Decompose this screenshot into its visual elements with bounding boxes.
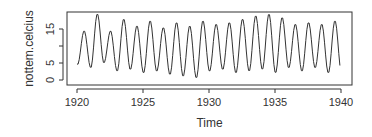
x-axis: 19201925193019351940 xyxy=(65,89,353,108)
y-tick-label: 0 xyxy=(44,77,56,83)
temperature-line xyxy=(77,15,340,78)
time-series-chart: 0515 19201925193019351940 nottem.celcius… xyxy=(0,0,372,137)
x-tick-label: 1940 xyxy=(329,96,353,108)
x-tick-label: 1920 xyxy=(65,96,89,108)
x-tick-label: 1935 xyxy=(263,96,287,108)
x-axis-label: Time xyxy=(196,116,223,130)
y-axis: 0515 xyxy=(44,23,63,83)
y-tick-label: 15 xyxy=(44,23,56,35)
y-tick-label: 5 xyxy=(44,60,56,66)
y-axis-label: nottem.celcius xyxy=(22,10,36,87)
x-tick-label: 1925 xyxy=(131,96,155,108)
x-tick-label: 1930 xyxy=(197,96,221,108)
